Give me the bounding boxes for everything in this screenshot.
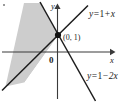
origin-label: 0 xyxy=(49,56,54,65)
line-label-upper-term: x xyxy=(111,9,115,19)
graph-figure: y=1+x y=1−2x (0, 1) 0 x y xyxy=(0,0,129,102)
intersection-point-dot xyxy=(55,32,61,38)
line-label-upper: y=1+x xyxy=(89,10,115,20)
y-axis-label: y xyxy=(51,2,55,11)
x-axis-label: x xyxy=(110,56,114,65)
intersection-point-label: (0, 1) xyxy=(63,34,80,42)
line-label-lower-term: 2x xyxy=(109,71,118,81)
line-label-lower: y=1−2x xyxy=(87,72,118,82)
y-axis-arrowhead-icon xyxy=(54,4,60,10)
